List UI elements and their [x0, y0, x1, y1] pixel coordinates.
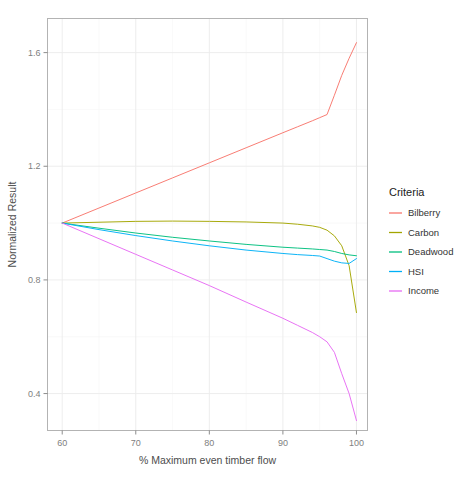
y-tick-label: 1.6: [28, 48, 41, 58]
y-tick-label: 0.4: [28, 389, 41, 399]
x-tick-label: 60: [57, 438, 67, 448]
x-tick-label: 90: [278, 438, 288, 448]
x-tick-label: 80: [204, 438, 214, 448]
legend-item-label: Deadwood: [408, 246, 453, 257]
legend-item-label: Carbon: [408, 227, 439, 238]
chart-figure: 60708090100 0.40.81.21.6 % Maximum even …: [0, 0, 470, 487]
y-tick-label: 0.8: [28, 275, 41, 285]
x-tick-label: 70: [131, 438, 141, 448]
legend-title: Criteria: [389, 186, 425, 198]
y-axis-title: Normalized Result: [6, 182, 18, 268]
plot-panel: [48, 19, 368, 431]
legend-item-label: Income: [408, 285, 439, 296]
x-axis-title: % Maximum even timber flow: [139, 454, 277, 466]
y-tick-label: 1.2: [28, 161, 41, 171]
legend-item-label: HSI: [408, 266, 424, 277]
x-tick-label: 100: [349, 438, 364, 448]
line-chart-svg: 60708090100 0.40.81.21.6 % Maximum even …: [0, 0, 470, 487]
legend-item-label: Bilberry: [408, 207, 440, 218]
